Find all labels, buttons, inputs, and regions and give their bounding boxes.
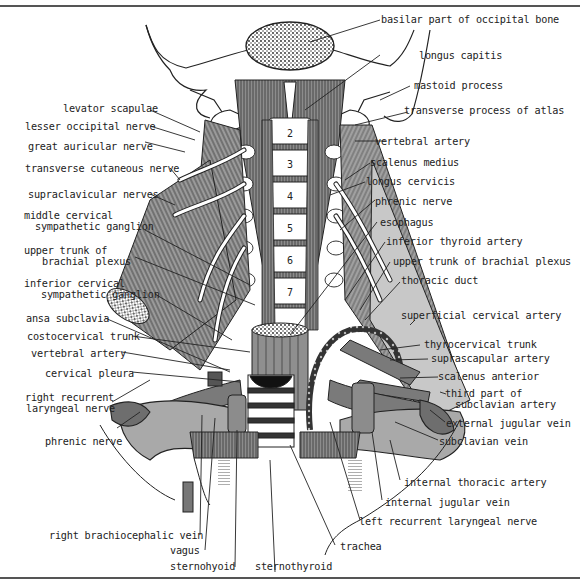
label-lesser-occipital-nerve: lesser occipital nerve <box>25 121 156 132</box>
label-right-recurrent-line2: laryngeal nerve <box>25 403 115 414</box>
label-internal-thoracic-artery: internal thoracic artery <box>404 477 546 488</box>
label-trachea: trachea <box>340 541 382 552</box>
label-transverse-process-atlas: transverse process of atlas <box>404 105 564 116</box>
label-cervical-pleura: cervical pleura <box>45 368 134 379</box>
label-longus-capitis: longus capitis <box>419 50 502 61</box>
label-external-jugular-vein: external jugular vein <box>446 418 571 429</box>
label-supraclavicular-nerves: supraclavicular nerves <box>28 189 159 200</box>
vertebra-4: 4 <box>287 191 293 202</box>
label-inferior-cervical-line2: sympathetic ganglion <box>24 289 160 300</box>
label-upper-trunk-line1: upper trunk of <box>24 245 131 256</box>
label-internal-jugular-vein: internal jugular vein <box>385 497 510 508</box>
vertebra-5: 5 <box>287 223 293 234</box>
label-third-part-line1: third part of <box>445 388 556 399</box>
label-right-recurrent-line1: right recurrent <box>25 392 115 403</box>
vertebra-7: 7 <box>287 287 293 298</box>
label-middle-cervical-line1: middle cervical <box>24 210 154 221</box>
label-middle-cervical-line2: sympathetic ganglion <box>24 221 154 232</box>
label-suprascapular-artery: suprascapular artery <box>431 353 550 364</box>
label-phrenic-nerve-right: phrenic nerve <box>375 196 452 207</box>
label-superficial-cervical-artery: superficial cervical artery <box>401 310 561 321</box>
label-vertebral-artery-left: vertebral artery <box>31 348 126 359</box>
label-right-recurrent-laryngeal: right recurrent laryngeal nerve <box>25 392 115 414</box>
vertebra-3: 3 <box>287 159 293 170</box>
label-costocervical-trunk: costocervical trunk <box>27 331 140 342</box>
label-sternothyroid: sternothyroid <box>255 561 332 572</box>
label-upper-trunk-line2: brachial plexus <box>24 256 131 267</box>
label-phrenic-nerve-left: phrenic nerve <box>45 436 122 447</box>
label-basilar-part: basilar part of occipital bone <box>381 14 559 25</box>
label-great-auricular-nerve: great auricular nerve <box>28 141 153 152</box>
label-thyrocervical-trunk: thyrocervical trunk <box>424 339 537 350</box>
label-inferior-cervical-ganglion: inferior cervical sympathetic ganglion <box>24 278 160 300</box>
label-right-brachiocephalic-vein: right brachiocephalic vein <box>49 530 203 541</box>
label-scalenus-medius: scalenus medius <box>370 157 459 168</box>
basilar-bone-section <box>246 22 334 70</box>
label-third-part-line2: subclavian artery <box>445 399 556 410</box>
label-transverse-cutaneous-nerve: transverse cutaneous nerve <box>25 163 179 174</box>
label-left-recurrent-laryngeal: left recurrent laryngeal nerve <box>359 516 537 527</box>
label-sternohyoid: sternohyoid <box>170 561 235 572</box>
label-inferior-cervical-line1: inferior cervical <box>24 278 160 289</box>
label-upper-trunk-brachial-right: upper trunk of brachial plexus <box>393 256 571 267</box>
label-third-part-subclavian: third part of subclavian artery <box>445 388 556 410</box>
label-middle-cervical-ganglion: middle cervical sympathetic ganglion <box>24 210 154 232</box>
label-longus-cervicis: longus cervicis <box>366 176 455 187</box>
label-vertebral-artery-right: vertebral artery <box>375 136 470 147</box>
label-ansa-subclavia: ansa subclavia <box>26 313 109 324</box>
label-subclavian-vein: subclavian vein <box>439 436 528 447</box>
label-mastoid-process: mastoid process <box>414 80 503 91</box>
vertebra-2: 2 <box>287 128 293 139</box>
label-vagus: vagus <box>170 545 200 556</box>
label-inferior-thyroid-artery: inferior thyroid artery <box>386 236 522 247</box>
label-levator-scapulae: levator scapulae <box>63 103 158 114</box>
vertebra-6: 6 <box>287 255 293 266</box>
label-esophagus: esophagus <box>380 217 433 228</box>
label-upper-trunk-brachial-left: upper trunk of brachial plexus <box>24 245 131 267</box>
label-scalenus-anterior: scalenus anterior <box>438 371 539 382</box>
label-thoracic-duct: thoracic duct <box>401 275 478 286</box>
